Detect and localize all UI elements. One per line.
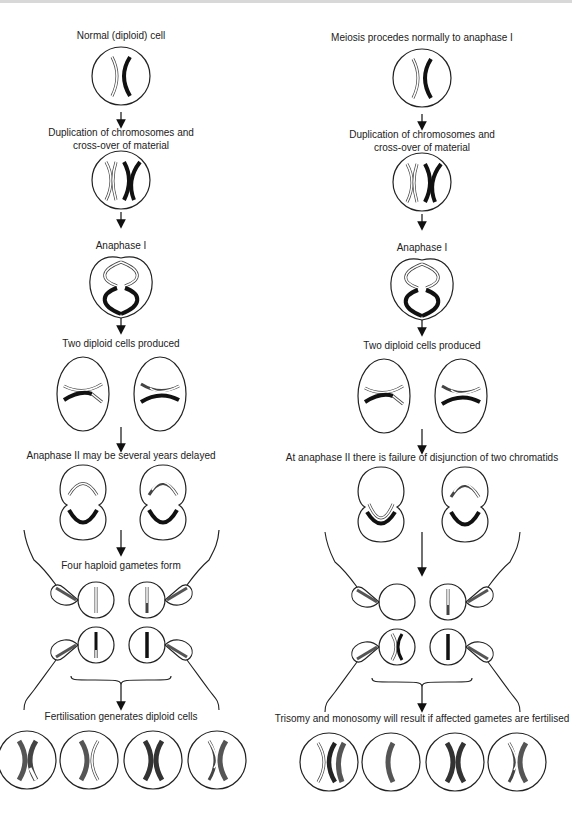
label-nondisjunction: At anaphase II there is failure of disju… <box>286 452 558 464</box>
anaphase-ii-cell-2 <box>140 465 186 540</box>
label-anaphase-i-r: Anaphase I <box>397 242 448 254</box>
anaphase-ii-cell-r1 <box>358 467 404 542</box>
normal-cell <box>92 47 150 105</box>
left-column <box>0 47 246 789</box>
label-normal-cell: Normal (diploid) cell <box>77 30 165 42</box>
label-meiosis-normal: Meiosis procedes normally to anaphase I <box>331 32 513 44</box>
label-anaphase-ii-delayed: Anaphase II may be several years delayed <box>27 450 216 462</box>
label-four-gametes: Four haploid gametes form <box>61 560 181 572</box>
duplicated-cell-r <box>393 153 451 211</box>
label-fertilisation: Fertilisation generates diploid cells <box>45 711 198 723</box>
label-duplication-r: Duplication of chromosomes and <box>349 129 495 141</box>
label-crossover-r: cross-over of material <box>374 142 470 154</box>
anaphase-i-cell <box>90 257 152 318</box>
label-crossover: cross-over of material <box>73 140 169 152</box>
anaphase-ii-cell-1 <box>60 465 106 540</box>
label-duplication: Duplication of chromosomes and <box>48 127 194 139</box>
right-column <box>300 49 546 791</box>
anaphase-ii-cell-r2 <box>442 467 488 542</box>
meiosis-diagram <box>0 0 572 828</box>
label-anaphase-i: Anaphase I <box>96 240 147 252</box>
normal-cell-r <box>393 49 451 107</box>
anaphase-i-cell-r <box>391 259 453 320</box>
duplicated-cell <box>92 151 150 209</box>
label-trisomy-monosomy: Trisomy and monosomy will result if affe… <box>275 713 570 725</box>
label-two-diploid-r: Two diploid cells produced <box>363 340 480 352</box>
label-two-diploid: Two diploid cells produced <box>62 338 179 350</box>
gamete-r1-empty <box>379 584 415 620</box>
